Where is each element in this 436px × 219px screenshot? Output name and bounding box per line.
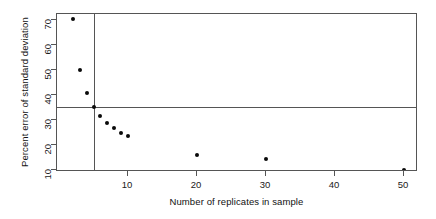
- data-point: [92, 105, 96, 109]
- y-tick-label-30: 30: [42, 119, 53, 130]
- x-tick-mark-50: [403, 171, 404, 176]
- x-tick-mark-20: [196, 171, 197, 176]
- plot-area: [57, 14, 416, 170]
- x-tick-label-10: 10: [122, 179, 133, 190]
- reference-line-vertical: [94, 14, 95, 170]
- y-tick-label-10: 10: [42, 169, 53, 180]
- data-point: [105, 121, 109, 125]
- y-axis-title: Percent error of standard deviation: [17, 13, 31, 171]
- plot-frame: [56, 13, 417, 171]
- data-point: [119, 131, 123, 135]
- x-tick-label-40: 40: [329, 179, 340, 190]
- data-point: [71, 17, 75, 21]
- data-point: [78, 68, 82, 72]
- x-axis-title: Number of replicates in sample: [56, 196, 417, 207]
- data-point: [112, 126, 116, 130]
- data-point: [126, 134, 130, 138]
- y-tick-label-60: 60: [42, 44, 53, 55]
- x-tick-label-30: 30: [260, 179, 271, 190]
- x-tick-mark-40: [334, 171, 335, 176]
- data-point: [264, 157, 268, 161]
- y-tick-label-40: 40: [42, 94, 53, 105]
- y-tick-label-20: 20: [42, 144, 53, 155]
- figure-canvas: Percent error of standard deviation 70 6…: [0, 0, 436, 219]
- data-point: [98, 114, 102, 118]
- data-point: [402, 168, 406, 171]
- x-tick-label-50: 50: [398, 179, 409, 190]
- y-tick-label-50: 50: [42, 69, 53, 80]
- x-tick-mark-10: [127, 171, 128, 176]
- data-point: [85, 91, 89, 95]
- x-tick-mark-30: [265, 171, 266, 176]
- x-tick-label-20: 20: [191, 179, 202, 190]
- y-tick-label-70: 70: [42, 19, 53, 30]
- data-point: [195, 153, 199, 157]
- reference-line-horizontal: [57, 107, 416, 108]
